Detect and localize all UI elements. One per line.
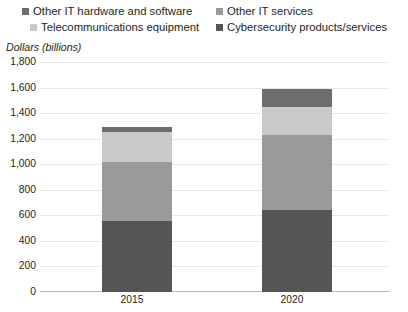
legend-item-cybersecurity-products-services: Cybersecurity products/services — [216, 21, 387, 34]
legend-item-telecommunications-equipment: Telecommunications equipment — [30, 21, 199, 34]
bar-segment-2015-telecommunications-equipment — [102, 132, 172, 161]
y-axis-title: Dollars (billions) — [6, 41, 81, 53]
legend-label-other-it-services: Other IT services — [227, 5, 313, 18]
bar-2015 — [102, 127, 172, 292]
legend-swatch-other-it-hardware-and-software — [22, 8, 29, 15]
y-tick-400: 400 — [0, 235, 36, 246]
x-tick-2015: 2015 — [87, 294, 177, 305]
y-tick-800: 800 — [0, 184, 36, 195]
gridline — [40, 113, 390, 114]
gridline — [40, 88, 390, 89]
y-tick-1400: 1,400 — [0, 107, 36, 118]
chart-legend: Other IT hardware and software Other IT … — [0, 0, 408, 36]
bar-2020 — [262, 89, 332, 292]
y-tick-1800: 1,800 — [0, 56, 36, 67]
legend-label-telecommunications-equipment: Telecommunications equipment — [41, 21, 199, 34]
stacked-bar-chart: Other IT hardware and software Other IT … — [0, 0, 408, 312]
y-tick-0: 0 — [0, 286, 36, 297]
y-tick-200: 200 — [0, 260, 36, 271]
legend-label-other-it-hardware-and-software: Other IT hardware and software — [33, 5, 192, 18]
x-tick-2020: 2020 — [247, 294, 337, 305]
y-axis-tick-labels: 02004006008001,0001,2001,4001,6001,800 — [0, 62, 36, 292]
gridline — [40, 190, 390, 191]
y-tick-1600: 1,600 — [0, 82, 36, 93]
gridline — [40, 62, 390, 63]
gridline — [40, 164, 390, 165]
legend-label-cybersecurity-products-services: Cybersecurity products/services — [227, 21, 387, 34]
x-axis-tick-labels: 2015 2020 — [40, 294, 390, 310]
bar-segment-2015-cybersecurity-products-services — [102, 221, 172, 292]
plot-area — [40, 62, 390, 292]
y-tick-600: 600 — [0, 209, 36, 220]
legend-item-other-it-hardware-and-software: Other IT hardware and software — [22, 5, 192, 18]
legend-swatch-other-it-services — [216, 8, 223, 15]
y-tick-1000: 1,000 — [0, 158, 36, 169]
axis-baseline — [40, 291, 390, 292]
gridline — [40, 241, 390, 242]
gridline — [40, 139, 390, 140]
legend-swatch-telecommunications-equipment — [30, 24, 37, 31]
gridline — [40, 215, 390, 216]
bar-segment-2020-cybersecurity-products-services — [262, 210, 332, 292]
bar-segment-2020-other-it-services — [262, 135, 332, 210]
bar-segment-2020-telecommunications-equipment — [262, 107, 332, 135]
legend-swatch-cybersecurity-products-services — [216, 24, 223, 31]
gridline — [40, 266, 390, 267]
y-tick-1200: 1,200 — [0, 133, 36, 144]
bar-segment-2015-other-it-services — [102, 162, 172, 221]
bar-segment-2020-other-it-hardware-and-software — [262, 89, 332, 107]
legend-item-other-it-services: Other IT services — [216, 5, 313, 18]
